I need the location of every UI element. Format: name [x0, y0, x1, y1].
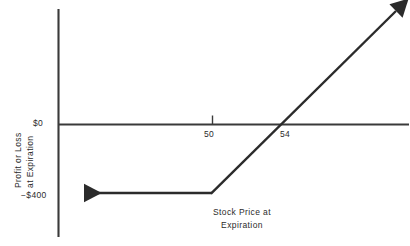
x-tick-label-breakeven: 54 [280, 129, 290, 140]
y-axis-label-line-1: Profit or Loss [13, 132, 23, 188]
x-axis-label-line-1: Stock Price at [182, 206, 302, 219]
x-axis-label: Stock Price at Expiration [182, 206, 302, 232]
x-tick-label-strike: 50 [204, 129, 214, 140]
y-tick-label-zero: $0 [33, 118, 43, 129]
option-payoff-chart: Profit or Loss at Expiration $0 −$400 50… [0, 0, 410, 246]
y-axis-label: Profit or Loss at Expiration [2, 96, 28, 192]
y-axis-label-line-2: at Expiration [25, 136, 35, 188]
y-tick-label-max-loss: −$400 [21, 190, 47, 201]
x-axis-label-line-2: Expiration [182, 219, 302, 232]
